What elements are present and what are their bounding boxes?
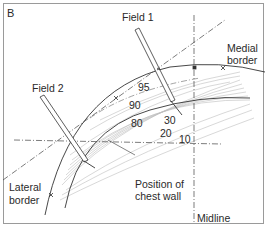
isodose-label-10: 10 xyxy=(179,134,191,145)
panel-label: B xyxy=(7,7,14,19)
lateral-border-label-2: border xyxy=(9,194,39,206)
isodose-diagram xyxy=(0,0,267,231)
isodose-label-80: 80 xyxy=(131,118,143,129)
isodose-label-90: 90 xyxy=(129,100,141,111)
field1-label: Field 1 xyxy=(122,11,154,23)
field2-label: Field 2 xyxy=(32,82,64,94)
chest-wall-label-2: chest wall xyxy=(135,190,181,202)
field2-beam xyxy=(40,95,95,168)
isodose-label-30: 30 xyxy=(164,115,176,126)
chest-wall-label-1: Position of xyxy=(135,178,184,190)
medial-border-label-1: Medial xyxy=(227,42,258,54)
lateral-border-label-1: Lateral xyxy=(9,181,41,193)
field1-beam xyxy=(135,28,182,115)
medial-border-label-2: border xyxy=(227,54,257,66)
isodose-label-95: 95 xyxy=(138,82,150,93)
isodose-label-20: 20 xyxy=(160,128,172,139)
midline-label: Midline xyxy=(197,212,230,224)
